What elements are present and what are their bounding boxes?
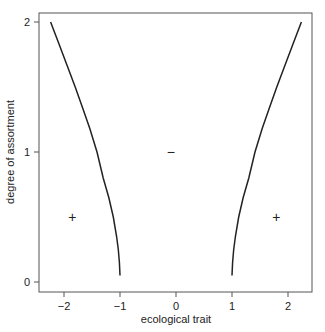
x-tick-label: 1: [229, 300, 235, 312]
x-tick-label: 2: [285, 300, 291, 312]
y-tick-label: 2: [24, 16, 30, 28]
y-tick-label: 0: [24, 276, 30, 288]
x-tick-label: −2: [58, 300, 71, 312]
x-axis: −2−1012: [58, 292, 291, 312]
y-axis: 012: [24, 16, 39, 288]
series-lines: [51, 22, 302, 276]
plus-marker: +: [272, 209, 280, 225]
left-boundary-curve: [51, 22, 120, 276]
chart: −2−1012 012 +−+ ecological trait degree …: [0, 0, 325, 332]
y-tick-label: 1: [24, 146, 30, 158]
right-boundary-curve: [232, 22, 301, 276]
annotations: +−+: [68, 144, 280, 225]
x-axis-title: ecological trait: [141, 313, 211, 325]
plus-marker: +: [68, 209, 76, 225]
plot-frame: [39, 13, 312, 292]
x-tick-label: 0: [173, 300, 179, 312]
y-axis-title: degree of assortment: [4, 100, 16, 204]
x-tick-label: −1: [114, 300, 127, 312]
minus-marker: −: [167, 144, 175, 160]
